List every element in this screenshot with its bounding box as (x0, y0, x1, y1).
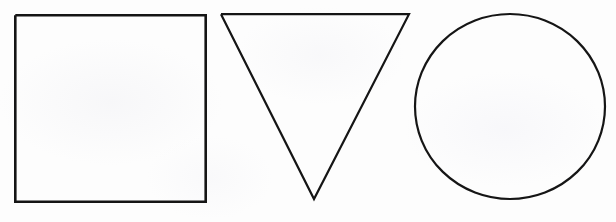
triangle-inverted-shape (221, 14, 409, 199)
shapes-canvas (0, 0, 616, 222)
square-shape (15, 15, 205, 201)
shapes-svg (0, 0, 616, 222)
circle-shape (415, 14, 605, 199)
